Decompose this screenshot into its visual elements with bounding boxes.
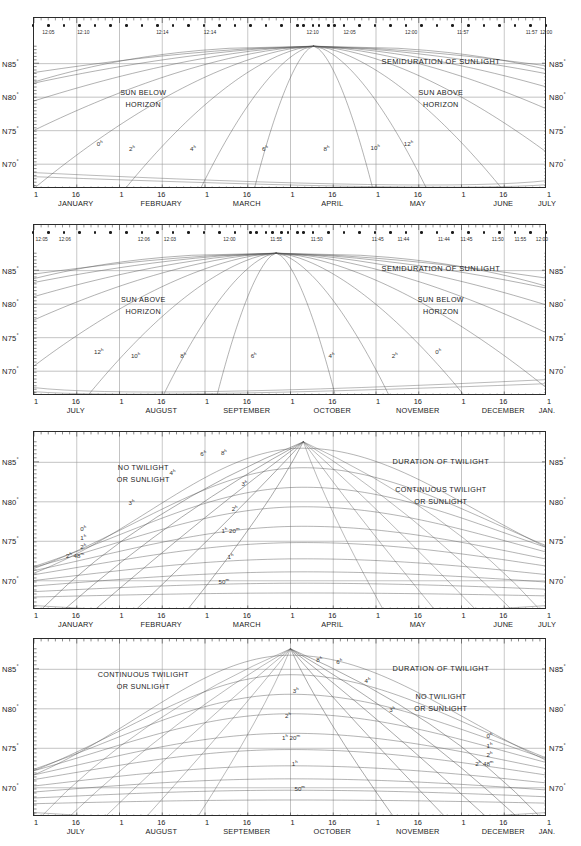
transit-marker-dot xyxy=(156,24,159,27)
transit-marker-dot xyxy=(514,24,517,27)
day-tick-1-end: 1 xyxy=(547,818,551,827)
contour-label: 6h xyxy=(200,449,206,457)
contour-label: 0h xyxy=(487,731,493,739)
day-tick-16-august: 16 xyxy=(157,818,165,827)
transit-marker-dot xyxy=(156,231,159,234)
transit-marker-dot xyxy=(420,231,423,234)
contour-label: 2h 48m xyxy=(475,759,493,767)
day-tick-16-september: 16 xyxy=(243,397,251,406)
day-tick-1-april: 1 xyxy=(290,190,294,199)
transit-marker-dot xyxy=(312,231,315,234)
contour-label: 2h xyxy=(232,504,238,512)
contour-label: 1h xyxy=(228,552,234,560)
transit-time-label: 11:57 xyxy=(526,30,538,35)
transit-marker-dot xyxy=(498,231,501,234)
transit-marker-dot xyxy=(187,231,190,234)
month-label-january: JANUARY xyxy=(58,620,93,629)
month-label-april: APRIL xyxy=(321,620,343,629)
y-axis-label-n75-left: N75° xyxy=(2,742,19,753)
month-label-august: AUGUST xyxy=(145,406,177,415)
transit-marker-dot xyxy=(358,24,361,27)
month-label-may: MAY xyxy=(410,620,426,629)
transit-time-label: 12:00 xyxy=(540,30,552,35)
transit-time-label: 11:44 xyxy=(397,237,409,242)
y-axis-label-n75-left: N75° xyxy=(2,535,19,546)
transit-marker-dot xyxy=(271,231,274,234)
transit-marker-dot xyxy=(483,24,486,27)
month-label-jan: JAN. xyxy=(539,827,556,836)
contour-label: 3h xyxy=(241,479,247,487)
semiduration-sunlight-jul-jan-plot xyxy=(33,224,546,395)
day-tick-1-june: 1 xyxy=(461,611,465,620)
transit-marker-dot xyxy=(327,24,330,27)
y-axis-label-n85-left: N85° xyxy=(2,663,19,674)
month-label-may: MAY xyxy=(410,199,426,208)
y-axis-label-n75-left: N75° xyxy=(2,332,19,343)
day-tick-1-october: 1 xyxy=(290,818,294,827)
transit-time-label: 12:10 xyxy=(77,30,89,35)
contour-label: 2h xyxy=(487,750,493,758)
month-label-march: MARCH xyxy=(233,620,261,629)
day-tick-1-february: 1 xyxy=(119,190,123,199)
day-tick-16-october: 16 xyxy=(328,818,336,827)
day-tick-16-december: 16 xyxy=(499,397,507,406)
y-axis-label-n70-right: N70° xyxy=(549,782,566,793)
transit-time-label: 12:10 xyxy=(306,30,318,35)
day-tick-1-end: 1 xyxy=(547,397,551,406)
y-axis-label-n75-right: N75° xyxy=(549,332,566,343)
y-axis-label-n75-right: N75° xyxy=(549,125,566,136)
contour-label: 12h xyxy=(94,347,103,355)
transit-marker-dot xyxy=(358,231,361,234)
transit-marker-dot xyxy=(545,231,548,234)
y-axis-label-n80-left: N80° xyxy=(2,91,19,102)
transit-marker-dot xyxy=(203,231,206,234)
transit-marker-dot xyxy=(280,24,283,27)
region-caption-right: NO TWILIGHTOR SUNLIGHT xyxy=(414,691,467,715)
transit-marker-dot xyxy=(287,231,290,234)
transit-marker-dot xyxy=(78,231,81,234)
transit-time-label: 12:03 xyxy=(164,237,176,242)
transit-marker-dot xyxy=(451,231,454,234)
y-axis-label-n75-left: N75° xyxy=(2,125,19,136)
day-tick-16-may: 16 xyxy=(414,190,422,199)
day-tick-16-june: 16 xyxy=(499,190,507,199)
y-axis-label-n85-left: N85° xyxy=(2,265,19,276)
day-tick-1-september: 1 xyxy=(205,818,209,827)
day-tick-1-february: 1 xyxy=(119,611,123,620)
day-tick-16-november: 16 xyxy=(414,397,422,406)
contour-label: 1h xyxy=(80,533,86,541)
contour-label: 1h xyxy=(292,759,298,767)
day-tick-1-october: 1 xyxy=(290,397,294,406)
day-tick-16-march: 16 xyxy=(243,611,251,620)
transit-time-label: 11:57 xyxy=(457,30,469,35)
day-tick-1-december: 1 xyxy=(461,397,465,406)
contour-label: 10h xyxy=(370,143,379,151)
y-axis-label-n70-left: N70° xyxy=(2,575,19,586)
transit-time-label: 12:00 xyxy=(536,237,548,242)
month-label-june: JUNE xyxy=(493,199,513,208)
transit-time-label: 11:45 xyxy=(372,237,384,242)
day-tick-16-november: 16 xyxy=(414,818,422,827)
contour-label: 2h xyxy=(80,542,86,550)
transit-marker-dot xyxy=(218,231,221,234)
transit-marker-dot xyxy=(109,231,112,234)
region-caption-left: SUN ABOVEHORIZON xyxy=(121,294,166,318)
day-tick-16-august: 16 xyxy=(157,397,165,406)
month-label-july: JULY xyxy=(538,199,556,208)
transit-marker-dot xyxy=(187,24,190,27)
y-axis-label-n80-right: N80° xyxy=(549,496,566,507)
contour-label: 4h xyxy=(365,676,371,684)
contour-label: 2h 48m xyxy=(66,551,84,559)
y-axis-label-n80-right: N80° xyxy=(549,703,566,714)
transit-time-label: 12:14 xyxy=(156,30,168,35)
day-tick-16-july: 16 xyxy=(72,818,80,827)
month-label-february: FEBRUARY xyxy=(141,199,182,208)
contour-label: 4h xyxy=(190,144,196,152)
transit-marker-dot xyxy=(420,24,423,27)
contour-label: 1h 20m xyxy=(282,733,300,741)
day-tick-1-end: 1 xyxy=(547,611,551,620)
transit-marker-dot xyxy=(498,24,501,27)
day-tick-1-march: 1 xyxy=(205,190,209,199)
transit-marker-dot xyxy=(374,231,377,234)
transit-marker-dot xyxy=(249,231,252,234)
